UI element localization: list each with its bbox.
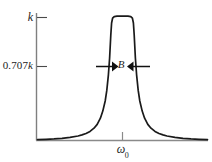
- half-power-value: 0.707: [3, 59, 28, 71]
- y-axis-label-half-power: 0.707k: [0, 60, 33, 71]
- x-axis-label-omega-zero: ω0: [112, 143, 134, 158]
- half-power-unit: k: [28, 59, 33, 71]
- y-axis-label-peak: k: [25, 11, 33, 23]
- omega-glyph: ω: [117, 142, 125, 156]
- omega-subscript: 0: [125, 151, 129, 160]
- bandwidth-label: B: [116, 59, 126, 70]
- resonance-plot: [0, 0, 212, 162]
- resonance-figure: k 0.707k B ω0: [0, 0, 212, 162]
- bandwidth-arrow-right: [127, 62, 150, 72]
- resonance-curve: [38, 16, 208, 140]
